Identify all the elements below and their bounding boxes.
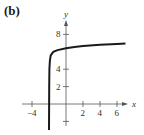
y-axis-arrow-icon [64, 20, 68, 26]
axis-ticks: −4246248 [27, 29, 120, 121]
y-tick-label: 2 [56, 82, 61, 92]
y-axis-label: y [63, 9, 68, 19]
x-tick-label: −4 [27, 108, 37, 118]
chart-plot: x y −4246248 [0, 0, 144, 135]
x-tick-label: 2 [81, 108, 86, 118]
y-tick-label: 8 [56, 29, 61, 39]
x-tick-label: 6 [115, 108, 120, 118]
x-axis-label: x [131, 99, 136, 109]
x-axis-arrow-icon [122, 102, 128, 106]
x-tick-label: 4 [98, 108, 103, 118]
y-tick-label: 4 [56, 64, 61, 74]
